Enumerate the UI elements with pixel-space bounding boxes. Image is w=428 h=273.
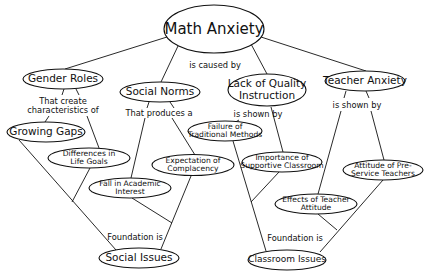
node-attitude-of-pre-service-teachers: Attitude of Pre- Service Teachers [351,162,415,179]
link-that-create-line2: characteristics of [27,106,98,115]
edge-attitude-classroom-issues [320,180,383,252]
node-growing-gaps-label: Growing Gaps [9,126,83,138]
link-label-foundation-social: Foundation is [107,233,163,242]
edge-fall-junction [132,198,172,223]
node-failure-line2: Traditional Methods [188,131,262,139]
edge-root-teacher [261,37,366,71]
node-expectation-of-complacency: Expectation of Complacency [166,157,221,174]
node-gender-roles: Gender Roles [28,73,98,85]
edge-differences-junction [72,168,90,202]
edge-gender-differences [87,116,99,148]
node-importance-of-supportive-classroom: Importance of Supportive Classroom [240,154,323,171]
edge-root-gender [65,37,167,69]
node-social-issues-label: Social Issues [105,252,172,264]
edge-root-social [161,46,178,82]
link-lqi-shown-by-text: is shown by [234,110,283,119]
node-lqi-label-line1: Lack of Quality [228,78,306,90]
node-gender-roles-label: Gender Roles [28,73,98,85]
node-differences-in-life-goals: Differences in Life Goals [63,150,115,167]
node-social-norms-label: Social Norms [126,86,195,98]
node-math-anxiety: Math Anxiety [164,21,263,38]
node-classroom-issues-label: Classroom Issues [248,255,326,265]
node-failure-of-traditional-methods: Failure of Traditional Methods [188,123,262,140]
node-effects-line2: Attitude [282,204,349,212]
node-math-anxiety-label: Math Anxiety [164,21,263,38]
edge-root-lqi [251,44,267,74]
concept-map: Math Anxiety Gender Roles Social Norms L… [0,0,428,273]
node-classroom-issues: Classroom Issues [248,255,326,265]
node-teacher-anxiety-label: Teacher Anxiety [323,75,407,87]
node-lqi-label-line2: Instruction [228,90,306,102]
link-is-caused-by-text: is caused by [189,61,241,70]
node-growing-gaps: Growing Gaps [9,126,83,138]
edge-social-fall [131,118,145,178]
edge-importance-junction [251,172,279,202]
node-effects-of-teacher-attitude: Effects of Teacher Attitude [282,196,349,213]
edge-effects-junction [318,214,337,230]
node-attitude-line2: Service Teachers [351,170,415,178]
edge-gender-label-a [62,89,64,95]
node-importance-line2: Supportive Classroom [240,162,323,170]
node-fall-in-academic-interest: Fall in Academic Interest [99,180,160,197]
node-social-issues: Social Issues [105,252,172,264]
link-teacher-shown-by-text: is shown by [333,101,382,110]
link-that-produces-text: That produces a [125,109,192,118]
node-differences-line2: Life Goals [63,158,115,166]
link-label-foundation-classroom: Foundation is [267,234,323,243]
edge-teacher-label-b [366,91,369,98]
link-label-teacher-is-shown-by: is shown by [333,101,382,110]
node-fall-line2: Interest [99,188,160,196]
edge-teacher-effects [318,111,341,194]
edge-gender-label-b [76,89,79,95]
link-label-that-produces-a: That produces a [125,109,192,118]
link-label-lqi-is-shown-by: is shown by [234,110,283,119]
link-label-is-caused-by: is caused by [189,61,241,70]
node-social-norms: Social Norms [126,86,195,98]
node-teacher-anxiety: Teacher Anxiety [323,75,407,87]
edge-teacher-label-a [344,91,346,98]
edge-teacher-attitude [371,111,384,160]
node-expectation-line2: Complacency [166,165,221,173]
link-foundation-social-text: Foundation is [107,233,163,242]
edge-gender-growing [45,116,49,122]
node-lack-of-quality-instruction: Lack of Quality Instruction [228,78,306,101]
link-foundation-classroom-text: Foundation is [267,234,323,243]
link-label-that-create: That create characteristics of [27,97,98,114]
